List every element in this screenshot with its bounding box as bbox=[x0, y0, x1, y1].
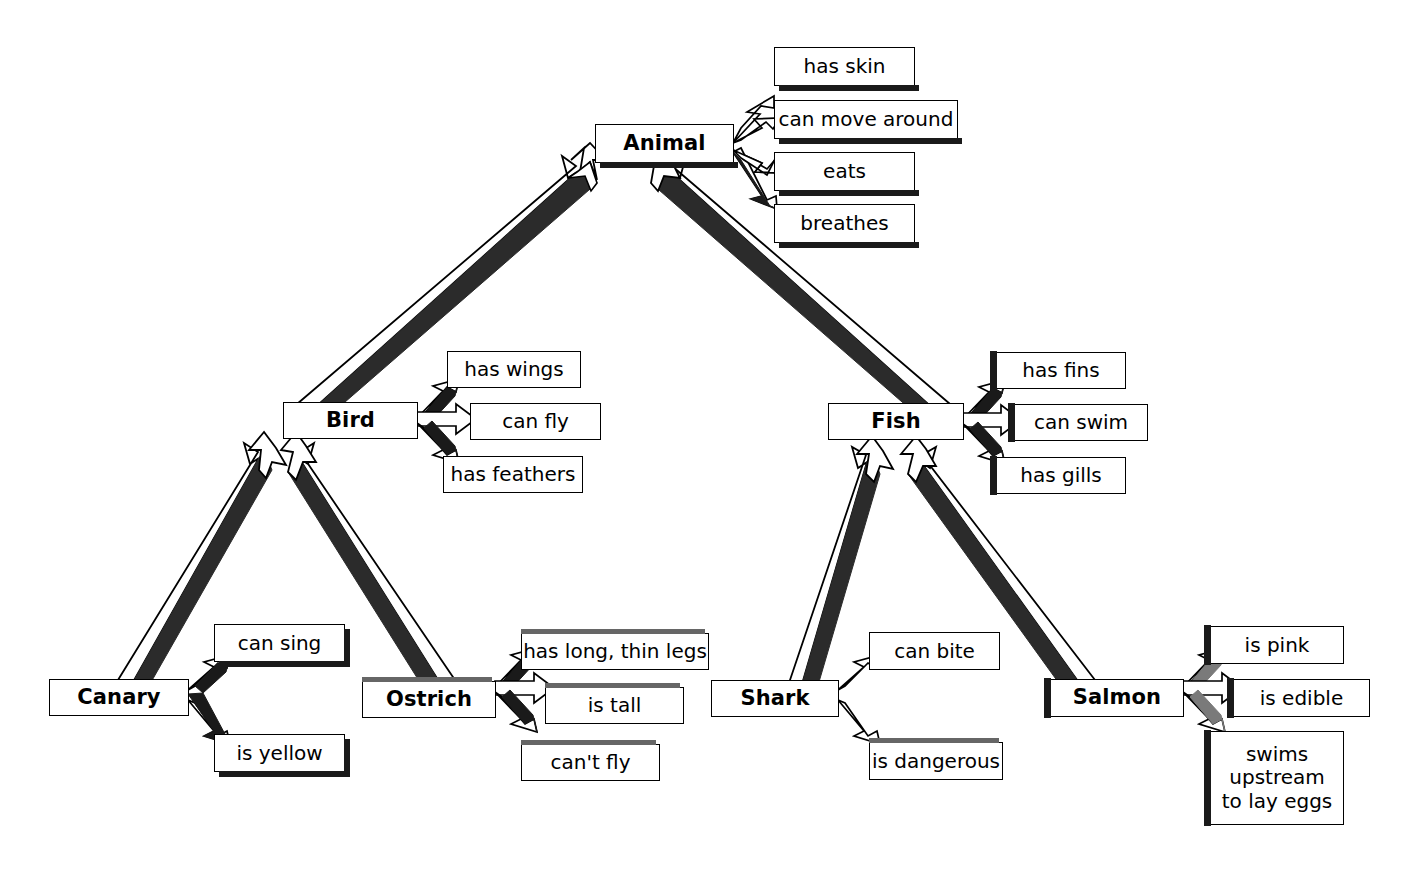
property-label-is-pink: is pink bbox=[1245, 634, 1310, 657]
property-label-swims-upstream-line-3: to lay eggs bbox=[1222, 790, 1333, 814]
property-node-has-long-thin-legs[interactable]: has long, thin legs bbox=[521, 633, 709, 670]
property-node-is-edible[interactable]: is edible bbox=[1233, 679, 1370, 717]
property-node-is-yellow[interactable]: is yellow bbox=[214, 734, 345, 772]
concept-label-shark: Shark bbox=[740, 686, 809, 710]
property-label-is-edible: is edible bbox=[1260, 687, 1343, 710]
property-node-is-dangerous[interactable]: is dangerous bbox=[869, 742, 1003, 780]
property-label-has-long-thin-legs: has long, thin legs bbox=[523, 640, 707, 663]
concept-label-canary: Canary bbox=[77, 685, 160, 709]
property-label-is-dangerous: is dangerous bbox=[872, 750, 1000, 773]
property-label-has-feathers: has feathers bbox=[451, 463, 576, 486]
concept-node-shark[interactable]: Shark bbox=[711, 680, 839, 717]
property-label-can-fly: can fly bbox=[502, 410, 569, 433]
property-node-is-tall[interactable]: is tall bbox=[545, 687, 684, 724]
property-label-can-move-around: can move around bbox=[779, 108, 954, 131]
concept-node-ostrich[interactable]: Ostrich bbox=[362, 681, 496, 718]
concept-node-bird[interactable]: Bird bbox=[283, 402, 418, 439]
property-label-is-tall: is tall bbox=[588, 694, 642, 717]
property-node-has-gills[interactable]: has gills bbox=[996, 457, 1126, 494]
property-node-has-feathers[interactable]: has feathers bbox=[443, 456, 583, 493]
property-node-cant-fly[interactable]: can't fly bbox=[521, 744, 660, 781]
property-node-can-fly[interactable]: can fly bbox=[470, 403, 601, 440]
concept-node-salmon[interactable]: Salmon bbox=[1050, 679, 1184, 717]
property-label-eats: eats bbox=[823, 160, 866, 183]
property-label-has-wings: has wings bbox=[464, 358, 563, 381]
property-label-swims-upstream-line-2: upstream bbox=[1229, 766, 1324, 790]
property-label-breathes: breathes bbox=[800, 212, 888, 235]
property-node-has-fins[interactable]: has fins bbox=[996, 352, 1126, 389]
semantic-network-diagram: Animal Bird Fish Canary Ostrich Shark Sa… bbox=[0, 0, 1417, 870]
property-label-has-fins: has fins bbox=[1022, 359, 1099, 382]
property-node-is-pink[interactable]: is pink bbox=[1210, 626, 1344, 664]
property-node-can-sing[interactable]: can sing bbox=[214, 624, 345, 662]
property-node-breathes[interactable]: breathes bbox=[774, 204, 915, 243]
property-label-has-skin: has skin bbox=[804, 55, 886, 78]
concept-label-animal: Animal bbox=[623, 131, 705, 155]
property-node-can-move-around[interactable]: can move around bbox=[774, 100, 958, 139]
property-label-can-sing: can sing bbox=[238, 632, 322, 655]
property-node-eats[interactable]: eats bbox=[774, 152, 915, 191]
property-node-swims-upstream-to-lay-eggs[interactable]: swims upstream to lay eggs bbox=[1210, 731, 1344, 825]
property-arrows-canary bbox=[188, 655, 230, 744]
property-node-has-wings[interactable]: has wings bbox=[447, 351, 581, 388]
concept-label-fish: Fish bbox=[871, 409, 920, 433]
property-label-can-bite: can bite bbox=[894, 640, 975, 663]
property-node-can-swim[interactable]: can swim bbox=[1014, 404, 1148, 441]
property-label-cant-fly: can't fly bbox=[550, 751, 630, 774]
concept-node-canary[interactable]: Canary bbox=[49, 679, 189, 716]
property-label-swims-upstream-line-1: swims bbox=[1246, 743, 1308, 767]
property-label-can-swim: can swim bbox=[1034, 411, 1128, 434]
property-arrows-bird bbox=[417, 379, 476, 463]
concept-node-animal[interactable]: Animal bbox=[595, 124, 734, 163]
property-label-has-gills: has gills bbox=[1020, 464, 1102, 487]
concept-label-bird: Bird bbox=[326, 408, 375, 432]
concept-label-salmon: Salmon bbox=[1073, 685, 1161, 709]
property-node-has-skin[interactable]: has skin bbox=[774, 47, 915, 86]
concept-node-fish[interactable]: Fish bbox=[828, 403, 964, 440]
property-node-can-bite[interactable]: can bite bbox=[869, 632, 1000, 670]
property-label-is-yellow: is yellow bbox=[236, 742, 322, 765]
concept-label-ostrich: Ostrich bbox=[386, 687, 472, 711]
